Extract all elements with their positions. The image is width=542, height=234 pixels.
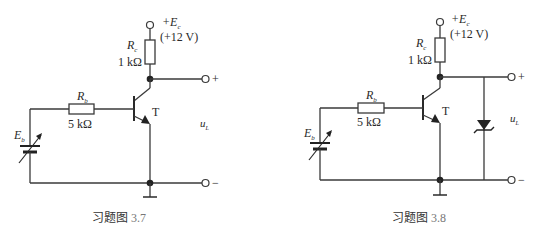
base-resistor	[358, 103, 384, 113]
source-label: Eb	[13, 128, 25, 144]
figure-3-8: +Ec (+12 V) Rc 1 kΩ + T Rb 5 kΩ Eb	[303, 12, 525, 225]
output-label: uL	[510, 112, 520, 126]
caption: 习题图3.7	[92, 211, 146, 225]
emitter-arrow	[431, 114, 440, 123]
supply-terminal	[437, 19, 444, 26]
minus-sign: −	[518, 173, 525, 187]
rc-label: Rc	[126, 38, 138, 54]
figure-3-7: +Ec (+12 V) Rc 1 kΩ + T Rb 5 kΩ Eb	[13, 15, 219, 225]
supply-value: (+12 V)	[160, 30, 198, 44]
rc-value: 1 kΩ	[408, 53, 432, 67]
rb-value: 5 kΩ	[68, 117, 92, 131]
collector-resistor	[145, 40, 155, 64]
caption: 习题图3.8	[392, 211, 446, 225]
plus-sign: +	[212, 72, 219, 86]
supply-label: +Ec	[162, 15, 181, 31]
supply-value: (+12 V)	[450, 27, 488, 41]
base-resistor	[69, 104, 94, 114]
zener-diode-icon	[477, 120, 491, 130]
output-minus-terminal	[508, 177, 515, 184]
supply-terminal	[147, 22, 154, 29]
collector-resistor	[435, 38, 445, 62]
rb-label: Rb	[76, 89, 88, 105]
minus-sign: −	[212, 176, 219, 190]
transistor-label: T	[442, 104, 450, 118]
source-label: Eb	[303, 126, 315, 142]
output-minus-terminal	[202, 180, 209, 187]
circuit-diagrams: +Ec (+12 V) Rc 1 kΩ + T Rb 5 kΩ Eb	[0, 0, 542, 234]
plus-sign: +	[518, 70, 525, 84]
transistor-label: T	[152, 105, 160, 119]
rc-value: 1 kΩ	[118, 55, 142, 69]
rc-label: Rc	[415, 36, 427, 52]
supply-label: +Ec	[451, 12, 470, 28]
output-plus-terminal	[202, 76, 209, 83]
rb-label: Rb	[365, 88, 377, 104]
output-plus-terminal	[508, 74, 515, 81]
output-label: uL	[200, 117, 210, 131]
rb-value: 5 kΩ	[357, 115, 381, 129]
